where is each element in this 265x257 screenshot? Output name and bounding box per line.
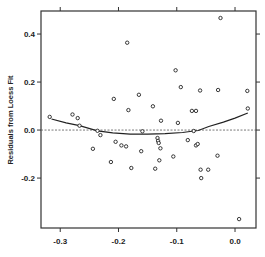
data-point <box>237 217 240 220</box>
data-point <box>176 121 179 124</box>
data-point <box>137 93 140 96</box>
data-point <box>71 113 74 116</box>
data-point <box>246 107 249 110</box>
data-point <box>246 89 249 92</box>
data-point <box>126 41 129 44</box>
data-point <box>192 129 195 132</box>
y-axis: -0.20.00.20.4 <box>21 30 260 183</box>
y-tick-label: 0.4 <box>24 30 36 39</box>
data-point <box>216 88 219 91</box>
x-tick-label: -0.2 <box>112 237 126 246</box>
data-point <box>216 154 219 157</box>
data-point <box>154 167 157 170</box>
data-point <box>199 168 202 171</box>
y-tick-label: 0.2 <box>24 78 36 87</box>
data-points <box>48 16 250 221</box>
data-point <box>120 144 123 147</box>
data-point <box>200 176 203 179</box>
data-point <box>127 108 130 111</box>
data-point <box>99 133 102 136</box>
data-point <box>158 159 161 162</box>
residual-scatter-plot: -0.3-0.2-0.10.0 -0.20.00.20.4 Residuals … <box>0 0 265 257</box>
data-point <box>219 16 222 19</box>
data-point <box>157 141 160 144</box>
x-tick-label: 0.0 <box>229 237 241 246</box>
plot-frame <box>41 11 256 228</box>
y-axis-label: Residuals from Loess Fit <box>6 75 15 165</box>
data-point <box>76 116 79 119</box>
data-point <box>198 89 201 92</box>
data-point <box>159 119 162 122</box>
x-tick-label: -0.1 <box>170 237 184 246</box>
data-point <box>179 85 182 88</box>
data-point <box>78 124 81 127</box>
data-point <box>190 109 193 112</box>
data-point <box>112 97 115 100</box>
data-point <box>109 160 112 163</box>
data-point <box>159 147 162 150</box>
data-point <box>96 129 99 132</box>
y-tick-label: 0.0 <box>24 126 36 135</box>
data-point <box>186 138 189 141</box>
data-point <box>91 147 94 150</box>
data-point <box>172 155 175 158</box>
data-point <box>114 140 117 143</box>
data-point <box>151 105 154 108</box>
data-point <box>130 166 133 169</box>
data-point <box>140 150 143 153</box>
data-point <box>196 142 199 145</box>
data-point <box>207 168 210 171</box>
loess-curve <box>52 113 248 134</box>
data-point <box>124 145 127 148</box>
y-tick-label: -0.2 <box>21 174 35 183</box>
data-point <box>48 115 51 118</box>
x-tick-label: -0.3 <box>53 237 67 246</box>
data-point <box>194 109 197 112</box>
data-point <box>174 69 177 72</box>
data-point <box>141 130 144 133</box>
